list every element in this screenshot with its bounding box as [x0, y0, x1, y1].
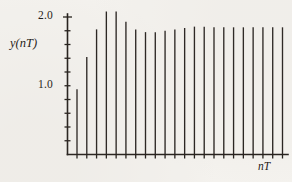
- y-axis-label: y(nT): [10, 36, 37, 51]
- y-tick-label-2: 2.0: [38, 9, 53, 21]
- y-tick-label-1: 1.0: [38, 78, 53, 90]
- x-axis-label: nT: [258, 160, 270, 172]
- impulse-plot: [0, 0, 292, 182]
- figure-canvas: 2.0 1.0 y(nT) nT: [0, 0, 292, 182]
